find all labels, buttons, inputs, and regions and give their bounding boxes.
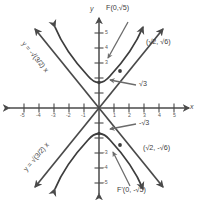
x-tick-label-5: 5	[173, 112, 176, 118]
graph-canvas	[0, 0, 200, 202]
point-upper-right-label: (√2, √6)	[146, 37, 171, 46]
x-tick-label-2: 2	[128, 112, 131, 118]
vertex-upper-label: √3	[139, 79, 147, 88]
y-tick-label--5: -5	[103, 179, 108, 185]
x-tick-label--3: -3	[51, 112, 56, 118]
x-tick-label--1: -1	[81, 112, 86, 118]
x-tick-label--2: -2	[66, 112, 71, 118]
leader-focus-lower	[113, 152, 130, 186]
leader-focus-upper	[108, 22, 128, 58]
focus-upper-label: F(0,√5)	[106, 3, 129, 12]
vertex-upper-dot	[97, 81, 100, 84]
point-sqrt2-neg-sqrt6	[118, 143, 122, 147]
x-tick-label-4: 4	[158, 112, 161, 118]
x-tick-label--5: -5	[20, 112, 25, 118]
x-axis-label: x	[190, 103, 194, 110]
y-axis-label: y	[90, 5, 94, 12]
x-tick-label--4: -4	[36, 112, 41, 118]
vertex-lower-dot	[97, 132, 100, 135]
y-tick-label-3: 3	[105, 59, 108, 65]
focus-lower-label: F'(0, -√5)	[117, 185, 146, 194]
y-tick-label-4: 4	[105, 44, 108, 50]
vertex-lower-label: -√3	[139, 118, 149, 127]
x-tick-label-1: 1	[113, 112, 116, 118]
hyperbola-figure: -5 -4 -3 -2 -1 1 2 3 4 5 5 4 3 -3 -4 -5 …	[0, 0, 200, 202]
point-sqrt2-sqrt6	[118, 69, 122, 73]
leader-vertex-upper	[110, 80, 136, 85]
y-tick-label--4: -4	[103, 164, 108, 170]
y-tick-label--3: -3	[103, 149, 108, 155]
y-tick-label-5: 5	[105, 29, 108, 35]
point-lower-right-label: (√2, -√6)	[143, 143, 170, 152]
